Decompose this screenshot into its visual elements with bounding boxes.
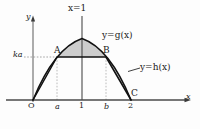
label-tick-2: 2: [128, 102, 133, 110]
label-ka: ka: [13, 51, 23, 59]
label-y-axis: y: [26, 13, 31, 21]
y-axis-arrow-icon: [31, 16, 35, 22]
label-point-a: A: [54, 46, 61, 55]
label-point-b: B: [103, 46, 110, 55]
leader-line-hx: [128, 68, 140, 72]
label-tick-1: 1: [79, 102, 84, 110]
label-curve-h: y=h(x): [140, 63, 171, 72]
label-x-axis: x: [186, 93, 191, 101]
math-figure: x=1 y x ka y=g(x) y=h(x) A B C O a 1 b 2: [0, 0, 200, 129]
label-point-c: C: [131, 89, 138, 98]
label-tick-a: a: [55, 103, 60, 111]
label-curve-g: y=g(x): [102, 31, 133, 40]
label-origin: O: [28, 102, 35, 110]
label-x-equals-1: x=1: [68, 4, 86, 13]
label-tick-b: b: [104, 103, 109, 111]
